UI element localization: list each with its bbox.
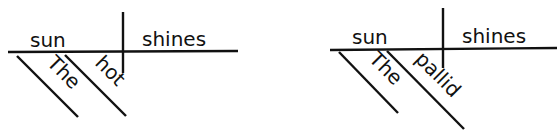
predicate-word: shines: [462, 24, 526, 48]
predicate-word: shines: [142, 27, 206, 51]
diagram-2: sun shines The pallid: [330, 8, 557, 129]
subject-word: sun: [30, 28, 66, 52]
modifier-word-2: pallid: [410, 47, 465, 102]
sentence-diagrams: sun shines The hot sun shines The pallid: [0, 0, 560, 138]
subject-word: sun: [352, 25, 388, 49]
diagram-1: sun shines The hot: [8, 12, 238, 117]
modifier-word-2: hot: [90, 51, 130, 91]
